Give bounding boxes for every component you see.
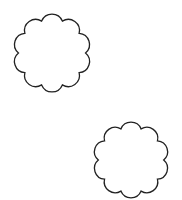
scalloped-flower-shape-1: [14, 14, 89, 92]
drawing-canvas: [0, 0, 182, 200]
scalloped-flower-shape-2: [94, 122, 167, 198]
